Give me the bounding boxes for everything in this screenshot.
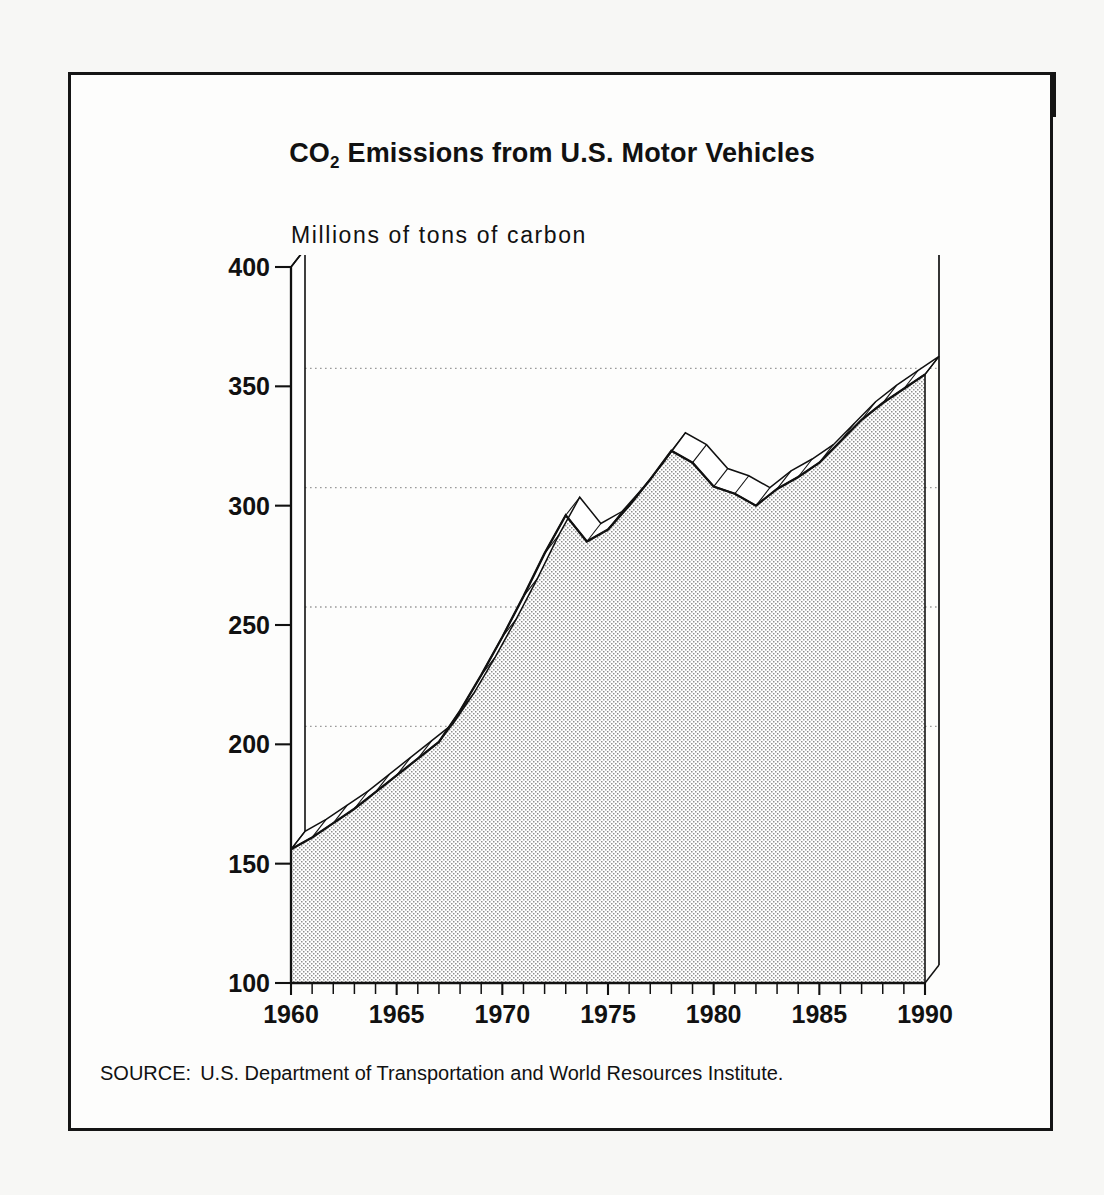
y-axis-unit-label: Millions of tons of carbon — [291, 222, 587, 249]
x-tick-label: 1980 — [686, 1000, 742, 1029]
area-chart-plot — [255, 255, 955, 995]
chart-title: CO2 Emissions from U.S. Motor Vehicles — [0, 138, 1104, 169]
source-text: U.S. Department of Transportation and Wo… — [200, 1062, 783, 1084]
source-note: SOURCE:U.S. Department of Transportation… — [100, 1062, 783, 1085]
chart-title-subscript: 2 — [330, 153, 340, 172]
x-axis-tick-labels: 1960196519701975198019851990 — [255, 1000, 955, 1036]
chart-title-rest: Emissions from U.S. Motor Vehicles — [340, 138, 815, 168]
x-tick-label: 1965 — [369, 1000, 425, 1029]
x-tick-label: 1975 — [580, 1000, 636, 1029]
area-series — [291, 356, 939, 983]
x-tick-label: 1990 — [897, 1000, 953, 1029]
x-tick-label: 1985 — [792, 1000, 848, 1029]
x-tick-label: 1970 — [475, 1000, 531, 1029]
chart-title-co: CO — [289, 138, 330, 168]
source-label: SOURCE: — [100, 1062, 191, 1084]
x-tick-label: 1960 — [263, 1000, 319, 1029]
chart-svg — [255, 255, 955, 995]
